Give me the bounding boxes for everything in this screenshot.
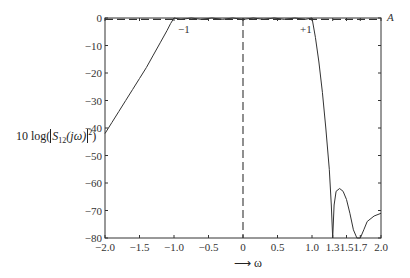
y-tick-label: −60	[85, 177, 103, 189]
x-tick-label: 1.0	[305, 241, 319, 253]
x-tick-label: 0.5	[271, 241, 285, 253]
annotation-a: A	[387, 11, 394, 23]
y-axis-label-arg: (jω)	[66, 129, 88, 143]
x-tick-label: 0	[240, 241, 246, 253]
x-tick-label: −1.0	[164, 241, 184, 253]
y-tick-label: −20	[85, 67, 103, 79]
x-tick-label: 1.5	[340, 241, 354, 253]
y-axis-label-close: )	[92, 129, 96, 143]
annotation-minus-one: −1	[178, 23, 190, 35]
x-tick-label: −0.5	[199, 241, 219, 253]
x-axis-label: ⟶ ω	[234, 256, 262, 271]
y-axis-label-text: 10 log(	[16, 129, 50, 143]
y-axis-label: 10 log(S12(jω)2)	[16, 128, 96, 145]
y-tick-label: 0	[97, 12, 103, 24]
y-tick-label: −30	[85, 95, 103, 107]
y-tick-label: −70	[85, 205, 103, 217]
y-tick-label: −80	[85, 232, 103, 244]
x-tick-label: 1.3	[326, 241, 340, 253]
annotation-plus-one: +1	[300, 23, 312, 35]
x-tick-label: 1.7	[353, 241, 367, 253]
x-tick-label: −1.5	[130, 241, 150, 253]
y-tick-label: −10	[85, 40, 103, 52]
y-tick-label: −50	[85, 150, 103, 162]
x-tick-label: 2.0	[374, 241, 388, 253]
